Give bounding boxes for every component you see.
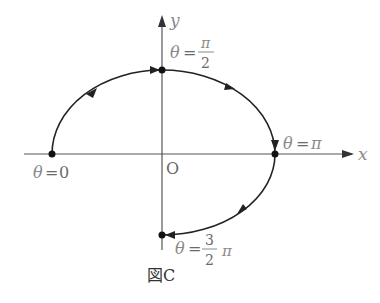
svg-text:π: π xyxy=(200,35,211,51)
direction-arrow-icon xyxy=(237,204,247,214)
svg-text:θ: θ xyxy=(283,134,293,153)
svg-text:=: = xyxy=(45,163,58,182)
svg-text:=: = xyxy=(188,239,201,258)
label-theta-3pi-2: θ = 3 2 π xyxy=(175,232,233,268)
svg-text:π: π xyxy=(310,134,322,153)
parametric-diagram: y x O θ = 0 θ = π 2 θ = π θ = 3 2 π 図C xyxy=(0,0,380,303)
y-axis xyxy=(158,15,166,250)
label-theta-pi: θ = π xyxy=(283,134,322,153)
svg-text:θ: θ xyxy=(170,43,180,62)
svg-text:0: 0 xyxy=(59,163,69,182)
svg-text:θ: θ xyxy=(175,239,185,258)
origin-label: O xyxy=(166,159,179,178)
direction-arrow-icon xyxy=(165,231,175,239)
label-theta-pi-2: θ = π 2 xyxy=(170,35,214,71)
point-theta-pi xyxy=(272,151,279,158)
label-theta-0: θ = 0 xyxy=(33,163,69,182)
point-theta-pi-2 xyxy=(159,67,166,74)
svg-text:=: = xyxy=(296,134,309,153)
direction-arrow-icon xyxy=(271,140,279,151)
y-axis-arrow-icon xyxy=(158,15,166,27)
svg-text:2: 2 xyxy=(201,55,210,71)
svg-text:2: 2 xyxy=(205,252,214,268)
x-axis-label: x xyxy=(358,144,368,164)
svg-text:3: 3 xyxy=(205,232,214,248)
curve-upper-left xyxy=(52,70,162,154)
x-axis-arrow-icon xyxy=(342,150,354,158)
point-theta-0 xyxy=(49,151,56,158)
svg-text:π: π xyxy=(221,242,233,260)
svg-text:=: = xyxy=(183,43,196,62)
svg-text:θ: θ xyxy=(33,163,43,182)
curve-upper-right xyxy=(162,70,275,154)
y-axis-label: y xyxy=(169,10,180,30)
figure-caption: 図C xyxy=(147,266,175,285)
point-theta-3pi-2 xyxy=(159,232,166,239)
